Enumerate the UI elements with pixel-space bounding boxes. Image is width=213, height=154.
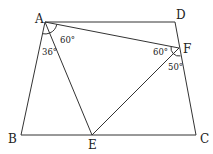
angle-arc-f-50	[173, 54, 180, 56]
angle-label-f-60: 60°	[153, 47, 168, 57]
point-label-f: F	[183, 42, 191, 56]
geometry-diagram: A D F B E C 60° 36° 60° 50°	[0, 0, 213, 154]
point-label-c: C	[200, 132, 209, 146]
diagram-svg: A D F B E C 60° 36° 60° 50°	[0, 0, 213, 154]
segment-dc	[175, 22, 196, 135]
point-label-e: E	[88, 138, 97, 152]
segment-ba	[21, 22, 45, 135]
point-label-d: D	[176, 8, 186, 22]
angle-label-a-60: 60°	[60, 35, 75, 45]
angle-arc-a-36	[43, 33, 50, 34]
angle-arc-a-60	[50, 24, 57, 33]
point-label-a: A	[34, 12, 44, 26]
angle-label-a-36: 36°	[42, 47, 57, 57]
angle-arc-f-60	[171, 47, 173, 54]
segment-ef	[92, 48, 179, 135]
point-label-b: B	[8, 132, 17, 146]
angle-label-f-50: 50°	[168, 62, 183, 72]
